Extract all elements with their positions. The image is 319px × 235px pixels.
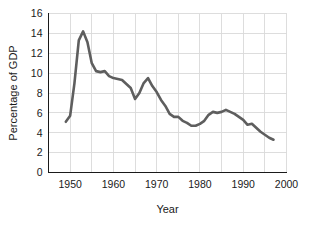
x-tick-label: 1960 [102, 178, 126, 190]
y-tick-label: 4 [37, 127, 43, 139]
x-tick-label: 1980 [188, 178, 212, 190]
y-tick-label: 16 [31, 7, 43, 19]
y-tick-label: 2 [37, 146, 43, 158]
x-axis-title: Year [156, 203, 179, 215]
y-tick-label: 14 [31, 27, 43, 39]
x-tick-label: 2000 [275, 178, 299, 190]
y-tick-label: 10 [31, 67, 43, 79]
line-chart-figure: 0246810121416 195019601970198019902000 Y… [0, 0, 319, 235]
x-tick-label: 1970 [145, 178, 169, 190]
y-axis-title: Percentage of GDP [7, 45, 19, 140]
y-tick-label: 6 [37, 107, 43, 119]
y-axis-tick-labels: 0246810121416 [31, 7, 43, 178]
y-tick-label: 12 [31, 47, 43, 59]
x-axis-tick-labels: 195019601970198019902000 [58, 178, 298, 190]
chart-canvas: 0246810121416 195019601970198019902000 Y… [0, 0, 319, 235]
data-series-line [66, 31, 274, 139]
y-tick-label: 8 [37, 87, 43, 99]
x-tick-label: 1990 [232, 178, 256, 190]
x-tick-label: 1950 [58, 178, 82, 190]
y-tick-label: 0 [37, 166, 43, 178]
